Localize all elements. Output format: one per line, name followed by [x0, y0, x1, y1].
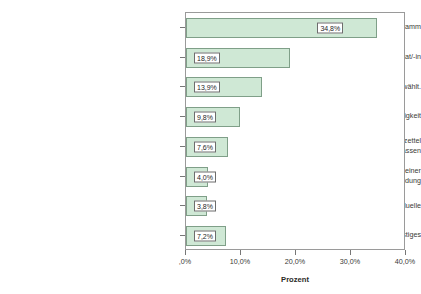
x-axis-tick — [295, 250, 296, 255]
bar-row: 4,0% — [186, 162, 404, 192]
x-axis-title: Prozent — [185, 275, 405, 284]
bar-value-label: 3,8% — [194, 201, 216, 212]
bar-value-label: 7,2% — [194, 231, 216, 242]
x-axis-tick-label: 40,0% — [395, 257, 415, 266]
bar-value-label: 13,9% — [194, 82, 220, 93]
bar-row: 18,9% — [186, 43, 404, 73]
x-axis-tick-label: 30,0% — [340, 257, 360, 266]
x-axis-tick — [185, 250, 186, 255]
bar-value-label: 18,9% — [194, 52, 220, 63]
x-axis-tick — [240, 250, 241, 255]
bar-row: 7,6% — [186, 132, 404, 162]
bar-row: 9,8% — [186, 102, 404, 132]
bar-row: 13,9% — [186, 73, 404, 103]
x-axis-tick — [405, 250, 406, 255]
bar-value-label: 9,8% — [194, 112, 216, 123]
bar-chart: Das Parteiprogramm Der/die Spitzenkandid… — [0, 0, 421, 294]
x-axis-tick-label: 10,0% — [230, 257, 250, 266]
bar-value-label: 4,0% — [194, 171, 216, 182]
bar-value-label: 34,8% — [317, 22, 343, 33]
plot-area: 34,8% 18,9% 13,9% 9,8% 7,6% 4,0% 3,8% 7 — [185, 12, 405, 250]
x-axis-tick-label: 20,0% — [285, 257, 305, 266]
bar-row: 3,8% — [186, 192, 404, 222]
x-axis-tick-label: ,0% — [179, 257, 191, 266]
bar-row: 7,2% — [186, 221, 404, 251]
bar-value-label: 7,6% — [194, 141, 216, 152]
bar — [186, 18, 377, 38]
bar-row: 34,8% — [186, 13, 404, 43]
x-axis-tick — [350, 250, 351, 255]
